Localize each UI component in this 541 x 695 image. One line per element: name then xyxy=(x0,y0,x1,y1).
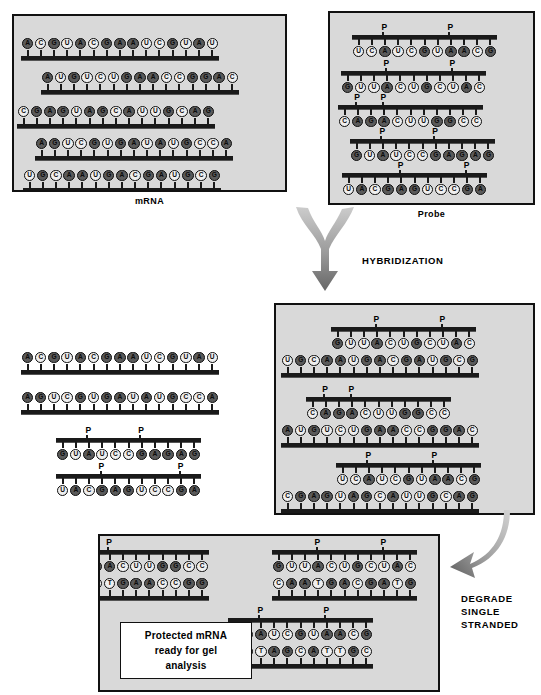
base-stem xyxy=(122,590,124,596)
phosphate-label: P xyxy=(85,426,91,435)
base-stem xyxy=(211,404,213,410)
nucleotide: U xyxy=(400,491,413,509)
protected-2-probe-strand: GUUACUGCUACPP xyxy=(272,550,417,576)
base-letter-G: G xyxy=(181,138,192,149)
nucleotide: C xyxy=(359,401,372,419)
nucleotide: G xyxy=(96,478,109,496)
base-stem xyxy=(389,331,391,337)
base-letter-G: G xyxy=(189,449,200,460)
base-letter-U: U xyxy=(108,72,119,83)
base-stem xyxy=(383,109,385,115)
nucleotide: C xyxy=(457,109,470,127)
base-stem xyxy=(187,182,189,188)
base-stem xyxy=(114,478,116,484)
hybrid-1-probe-strand: GUUACUGCUACPP xyxy=(331,327,476,353)
nucleotide: C xyxy=(455,467,468,485)
nucleotide: A xyxy=(147,72,160,90)
nucleotide: A xyxy=(82,442,95,460)
base-stem xyxy=(432,503,434,509)
nucleotide: C xyxy=(109,106,122,124)
nucleotide: G xyxy=(412,401,425,419)
base-stem xyxy=(365,622,367,628)
nucleotide: C xyxy=(87,38,100,56)
base-letter-U: U xyxy=(392,46,403,57)
nucleotide: C xyxy=(416,143,429,161)
base-letter-G: G xyxy=(75,392,86,403)
base-letter-U: U xyxy=(286,561,297,572)
base-letter-G: G xyxy=(462,184,473,195)
nucleotide: A xyxy=(35,138,48,156)
base-letter-U: U xyxy=(353,46,364,57)
base-stem xyxy=(373,75,375,81)
nucleotide: A xyxy=(391,554,404,572)
nucleotide: G xyxy=(341,75,354,93)
base-letter-T: T xyxy=(392,578,403,589)
nucleotide: U xyxy=(89,170,102,188)
base-letter-U: U xyxy=(180,352,191,363)
base-stem xyxy=(410,109,412,115)
nucleotide: U xyxy=(206,352,219,370)
base-row: GUUACUGCUAC xyxy=(331,331,476,349)
base-stem xyxy=(427,177,429,183)
base-letter-A: A xyxy=(335,355,346,366)
nucleotide: G xyxy=(402,467,415,485)
base-row: CAATGACGATG xyxy=(272,578,417,596)
base-letter-G: G xyxy=(326,578,337,589)
nucleotide: A xyxy=(307,646,320,664)
degrade-label: DEGRADESINGLESTRANDED xyxy=(461,592,519,631)
base-stem xyxy=(405,437,407,443)
base-letter-U: U xyxy=(137,106,148,117)
base-stem xyxy=(273,658,275,664)
base-letter-U: U xyxy=(321,425,332,436)
base-letter-A: A xyxy=(221,138,232,149)
nucleotide: G xyxy=(461,177,474,195)
nucleotide: C xyxy=(473,75,486,93)
nucleotide: C xyxy=(169,578,182,596)
hybrid-3-probe-strand: UCAUCGUAACGPP xyxy=(336,463,481,489)
nucleotide: U xyxy=(334,491,347,509)
base-letter-G: G xyxy=(115,138,126,149)
degrade-label-line-1: DEGRADE xyxy=(461,592,519,605)
base-letter-A: A xyxy=(123,106,134,117)
base-stem xyxy=(452,75,454,81)
base-letter-A: A xyxy=(374,355,385,366)
base-stem xyxy=(200,182,202,188)
nucleotide: A xyxy=(460,75,473,93)
nucleotide: C xyxy=(82,478,95,496)
base-row: AGUCGUGAUAUGCCA xyxy=(21,392,219,410)
base-stem xyxy=(172,364,174,370)
base-letter-A: A xyxy=(356,184,367,195)
base-letter-G: G xyxy=(183,578,194,589)
nucleotide: G xyxy=(281,646,294,664)
base-stem xyxy=(122,554,124,560)
base-stem xyxy=(300,367,302,373)
base-stem xyxy=(460,467,462,473)
base-letter-A: A xyxy=(461,82,472,93)
nucleotide: U xyxy=(397,331,410,349)
base-letter-U: U xyxy=(447,82,458,93)
nucleotide: A xyxy=(63,170,76,188)
base-letter-C: C xyxy=(390,474,401,485)
base-letter-A: A xyxy=(445,46,456,57)
base-letter-A: A xyxy=(352,116,363,127)
base-letter-G: G xyxy=(427,491,438,502)
base-stem xyxy=(145,50,147,56)
nucleotide: U xyxy=(136,106,149,124)
base-stem xyxy=(185,364,187,370)
base-letter-A: A xyxy=(193,38,204,49)
base-letter-A: A xyxy=(312,561,323,572)
strand-backbone xyxy=(281,373,479,377)
base-stem xyxy=(355,467,357,473)
nucleotide: G xyxy=(350,143,363,161)
base-letter-C: C xyxy=(424,338,435,349)
base-stem xyxy=(36,118,38,124)
degrade-label-line-2: SINGLE xyxy=(461,605,519,618)
phosphate-stem xyxy=(382,32,384,37)
base-stem xyxy=(175,554,177,560)
base-letter-U: U xyxy=(48,392,59,403)
degrade-label-line-3: STRANDED xyxy=(461,618,519,631)
base-letter-G: G xyxy=(295,355,306,366)
phosphate-stem xyxy=(139,435,141,440)
base-letter-C: C xyxy=(273,578,284,589)
base-stem xyxy=(225,150,227,156)
